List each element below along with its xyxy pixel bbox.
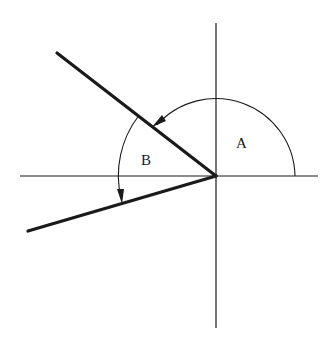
arc-a — [157, 99, 295, 176]
label-a: A — [236, 135, 247, 151]
arrowhead-a-icon — [152, 115, 166, 127]
upper-ray — [57, 53, 216, 176]
arc-b — [118, 116, 138, 198]
angle-diagram: A B — [0, 0, 335, 340]
label-b: B — [141, 152, 151, 168]
